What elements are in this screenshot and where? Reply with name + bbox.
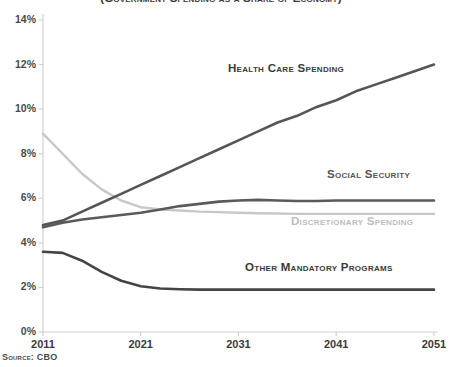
y-tick-8%: 8% [2, 147, 36, 159]
y-tick-10%: 10% [2, 102, 36, 114]
x-tick-2051: 2051 [411, 338, 451, 350]
y-tick-6%: 6% [2, 191, 36, 203]
series-label-health-care-spending: Health Care Spending [228, 62, 344, 74]
x-tick-2031: 2031 [216, 338, 262, 350]
y-tick-14%: 14% [2, 13, 36, 25]
source-note: Source: CBO [2, 352, 57, 362]
x-tick-2041: 2041 [313, 338, 359, 350]
series-label-other-mandatory-programs: Other Mandatory Programs [245, 261, 393, 273]
y-tick-12%: 12% [2, 58, 36, 70]
y-tick-4%: 4% [2, 236, 36, 248]
x-tick-2011: 2011 [20, 338, 66, 350]
series-label-social-security: Social Security [327, 168, 410, 180]
series-label-discretionary-spending: Discretionary Spending [291, 215, 413, 227]
y-tick-0%: 0% [2, 325, 36, 337]
y-tick-2%: 2% [2, 280, 36, 292]
x-tick-2021: 2021 [118, 338, 164, 350]
